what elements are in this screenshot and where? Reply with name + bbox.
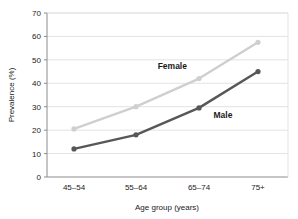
data-point-male	[255, 69, 260, 74]
chart-container: 010203040506070 45–5455–6465–7475+ Femal…	[0, 0, 298, 219]
data-point-male	[71, 146, 76, 151]
x-axis-tick-label: 55–64	[125, 183, 148, 192]
data-point-male	[196, 105, 201, 110]
data-point-female	[71, 126, 76, 131]
y-axis-tick-label: 40	[32, 79, 41, 88]
series-label-male: Male	[213, 110, 232, 120]
y-axis-tick-label: 20	[32, 126, 41, 135]
y-axis-title: Prevalence (%)	[7, 67, 16, 122]
y-axis-tick-label: 70	[32, 9, 41, 18]
y-axis-tick-label: 60	[32, 32, 41, 41]
series-label-female: Female	[158, 61, 188, 71]
x-axis-title: Age group (years)	[135, 203, 199, 212]
x-axis-tick-label: 75+	[251, 183, 265, 192]
data-point-female	[255, 40, 260, 45]
data-point-male	[133, 132, 138, 137]
y-axis-tick-label: 10	[32, 150, 41, 159]
data-point-female	[133, 104, 138, 109]
y-axis-tick-label: 50	[32, 56, 41, 65]
x-axis-tick-label: 65–74	[188, 183, 211, 192]
line-chart: 010203040506070 45–5455–6465–7475+ Femal…	[0, 0, 298, 219]
y-axis-tick-label: 0	[37, 173, 42, 182]
data-point-female	[196, 76, 201, 81]
x-axis-tick-label: 45–54	[63, 183, 86, 192]
y-axis-tick-label: 30	[32, 103, 41, 112]
